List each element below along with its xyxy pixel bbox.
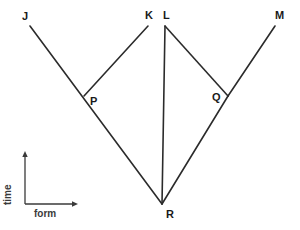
diagram-canvas: J K L M P Q R time form [0, 0, 300, 230]
time-axis-label: time [3, 184, 13, 205]
edge-group [30, 26, 275, 204]
node-label-j: J [22, 11, 28, 22]
form-axis-arrowhead [72, 201, 78, 206]
edge-m-q [228, 26, 275, 96]
node-label-q: Q [212, 92, 221, 103]
node-label-l: L [163, 10, 170, 21]
node-label-r: R [166, 209, 174, 220]
form-axis-label: form [34, 209, 56, 219]
edge-l-q [165, 26, 228, 96]
edge-l-r [162, 26, 165, 204]
edge-k-p [84, 26, 148, 96]
spacetime-diagram [0, 0, 300, 230]
node-label-m: M [275, 10, 284, 21]
time-axis-arrowhead [22, 151, 27, 157]
edge-q-r [162, 96, 228, 204]
edge-j-r [30, 26, 162, 204]
node-label-k: K [145, 10, 153, 21]
axis-group [22, 151, 78, 207]
edge-l-r-lower-segment [162, 26, 228, 204]
node-label-p: P [90, 96, 97, 107]
